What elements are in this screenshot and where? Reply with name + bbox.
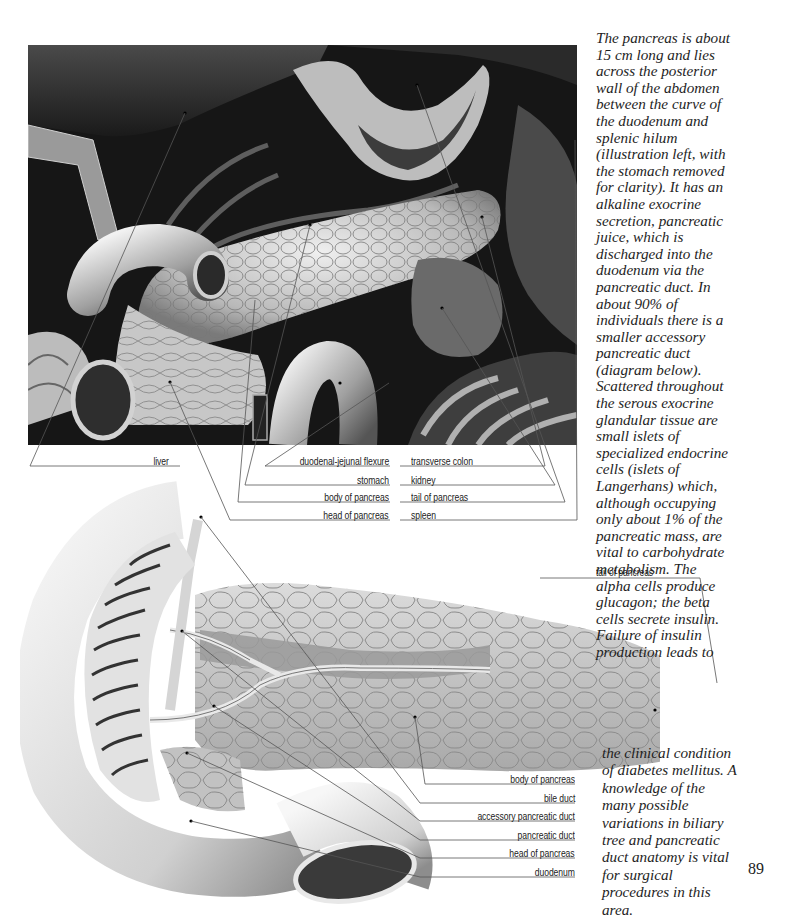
text-line: area.: [602, 901, 737, 918]
text-line: glandular tissue are: [596, 412, 730, 429]
text-line: for surgical: [602, 866, 737, 883]
label-duodenal-jejunal-flexure: duodenal-jejunal flexure: [300, 455, 389, 467]
text-line: duodenum via the: [596, 262, 730, 279]
text-line: Failure of insulin: [596, 627, 730, 644]
text-line: The pancreas is about: [596, 30, 730, 47]
text-line: wall of the abdomen: [596, 80, 730, 97]
text-line: Scattered throughout: [596, 378, 730, 395]
label-tail-of-pancreas-top: tail of pancreas: [411, 491, 468, 503]
text-line: discharged into the: [596, 246, 730, 263]
label-stomach: stomach: [357, 474, 389, 486]
text-line: between the curve of: [596, 96, 730, 113]
text-line: vital to carbohydrate: [596, 544, 730, 561]
text-line: 15 cm long and lies: [596, 47, 730, 64]
text-line: small islets of: [596, 428, 730, 445]
text-line: secretion, pancreatic: [596, 213, 730, 230]
text-line: production leads to: [596, 644, 730, 661]
text-line: duct anatomy is vital: [602, 848, 737, 865]
dissection-photo-graphic: [28, 45, 577, 445]
text-line: juice, which is: [596, 229, 730, 246]
label-body-of-pancreas-bottom: body of pancreas: [510, 773, 575, 785]
text-line: splenic hilum: [596, 130, 730, 147]
label-kidney: kidney: [411, 474, 435, 486]
text-line: although occupying: [596, 495, 730, 512]
label-body-of-pancreas-top: body of pancreas: [324, 491, 389, 503]
text-line: the clinical condition: [602, 744, 737, 761]
text-line: about 90% of: [596, 296, 730, 313]
page-number: 89: [748, 860, 764, 878]
label-pancreatic-duct: pancreatic duct: [518, 829, 575, 841]
text-line: variations in biliary: [602, 814, 737, 831]
label-bile-duct: bile duct: [544, 792, 575, 804]
text-line: for clarity). It has an: [596, 179, 730, 196]
text-line: pancreatic duct. In: [596, 279, 730, 296]
text-line: specialized endocrine: [596, 445, 730, 462]
pancreas-duct-graphic: [20, 470, 660, 910]
label-accessory-pancreatic-duct: accessory pancreatic duct: [477, 810, 575, 822]
text-line: procedures in this: [602, 883, 737, 900]
label-transverse-colon: transverse colon: [411, 455, 473, 467]
text-line: tree and pancreatic: [602, 831, 737, 848]
text-line: the serous exocrine: [596, 395, 730, 412]
text-line: the stomach removed: [596, 163, 730, 180]
label-duodenum: duodenum: [535, 866, 575, 878]
body-text-top: The pancreas is about15 cm long and lies…: [596, 30, 730, 661]
text-line: of diabetes mellitus. A: [602, 761, 737, 778]
text-line: metabolism. The: [596, 561, 730, 578]
text-line: smaller accessory: [596, 329, 730, 346]
text-line: glucagon; the beta: [596, 594, 730, 611]
text-line: many possible: [602, 796, 737, 813]
text-line: Langerhans) which,: [596, 478, 730, 495]
dissection-photo: [28, 45, 577, 445]
text-line: cells (islets of: [596, 461, 730, 478]
body-text-bottom: the clinical conditionof diabetes mellit…: [602, 744, 737, 918]
text-line: pancreatic mass, are: [596, 528, 730, 545]
text-line: the duodenum and: [596, 113, 730, 130]
text-line: alkaline exocrine: [596, 196, 730, 213]
label-head-of-pancreas-bottom: head of pancreas: [510, 847, 575, 859]
text-line: across the posterior: [596, 63, 730, 80]
text-line: (illustration left, with: [596, 146, 730, 163]
text-line: pancreatic duct: [596, 345, 730, 362]
text-line: cells secrete insulin.: [596, 611, 730, 628]
text-line: individuals there is a: [596, 312, 730, 329]
text-line: knowledge of the: [602, 779, 737, 796]
text-line: only about 1% of the: [596, 511, 730, 528]
label-liver: liver: [154, 455, 169, 467]
text-line: alpha cells produce: [596, 578, 730, 595]
text-line: (diagram below).: [596, 362, 730, 379]
pancreas-duct-illustration: [20, 470, 660, 910]
label-spleen: spleen: [411, 509, 436, 521]
label-head-of-pancreas-top: head of pancreas: [324, 509, 389, 521]
